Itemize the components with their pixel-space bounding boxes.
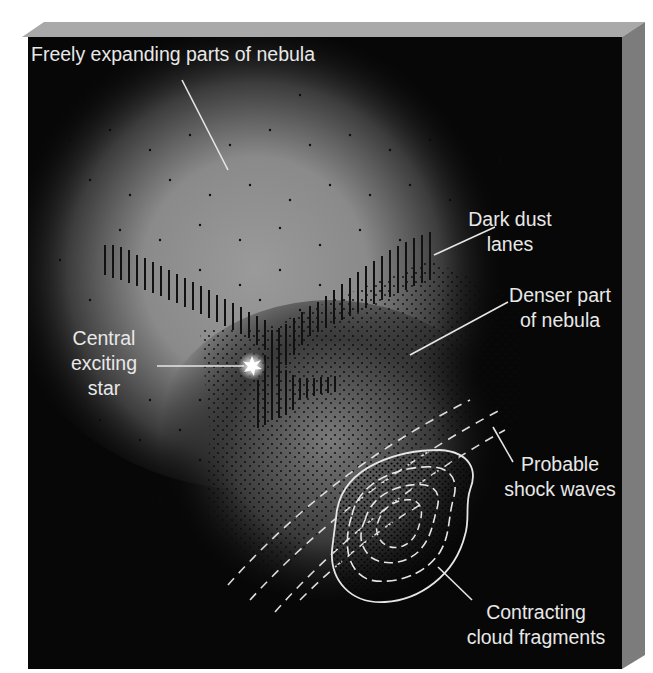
label-line: of nebula (500, 308, 620, 333)
panel-right-side (622, 22, 645, 669)
label-line: Freely expanding parts of nebula (31, 42, 315, 67)
label-shock-waves: Probable shock waves (498, 452, 622, 502)
label-line: cloud fragments (452, 625, 620, 650)
label-central-star: Central exciting star (58, 326, 150, 401)
label-line: Central (58, 326, 150, 351)
label-denser-part: Denser part of nebula (500, 283, 620, 333)
label-line: star (58, 376, 150, 401)
label-contracting: Contracting cloud fragments (452, 600, 620, 650)
label-line: shock waves (498, 477, 622, 502)
label-line: lanes (460, 232, 560, 257)
panel-top-bevel (22, 22, 645, 37)
label-line: Contracting (452, 600, 620, 625)
label-line: Probable (498, 452, 622, 477)
label-line: Denser part (500, 283, 620, 308)
label-freely-expanding: Freely expanding parts of nebula (31, 42, 315, 67)
label-line: exciting (58, 351, 150, 376)
label-dark-dust-lanes: Dark dust lanes (460, 207, 560, 257)
label-line: Dark dust (460, 207, 560, 232)
